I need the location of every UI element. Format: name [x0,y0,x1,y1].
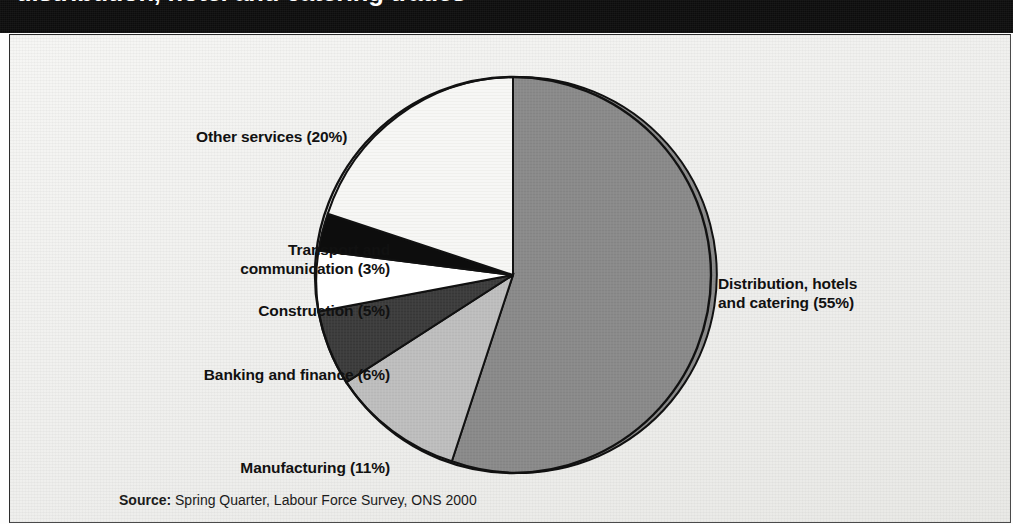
source-label: Source: [119,492,171,508]
page-title: distribution, hotel and catering trades [16,0,466,7]
pie-label-manufacturing: Manufacturing (11%) [98,458,390,477]
source-note: Source: Spring Quarter, Labour Force Sur… [119,492,477,508]
pie-label-transport-line2: communication (3%) [128,259,390,278]
pie-label-construction-text: Construction (5%) [258,302,390,319]
pie-label-other-services: Other services (20%) [196,127,347,146]
figure-title-bar: distribution, hotel and catering trades [0,0,1013,33]
figure-root: distribution, hotel and catering trades [0,0,1013,524]
pie-label-banking: Banking and finance (6%) [88,365,390,384]
source-value: Spring Quarter, Labour Force Survey, ONS… [171,492,477,508]
pie-label-construction: Construction (5%) [128,301,390,320]
chart-panel: Other services (20%) Transport and commu… [9,34,1011,523]
pie-chart [10,35,1011,523]
pie-label-banking-text: Banking and finance (6%) [204,366,390,383]
pie-label-other-services-text: Other services (20%) [196,128,347,145]
pie-label-distribution-line1: Distribution, hotels [718,274,857,293]
pie-chart-svg [10,35,1011,523]
pie-label-distribution-line2: and catering (55%) [718,293,857,312]
pie-label-manufacturing-text: Manufacturing (11%) [240,459,390,476]
pie-label-distribution: Distribution, hotels and catering (55%) [718,274,857,312]
pie-label-transport-line1: Transport and [128,240,390,259]
pie-label-transport: Transport and communication (3%) [128,240,390,278]
